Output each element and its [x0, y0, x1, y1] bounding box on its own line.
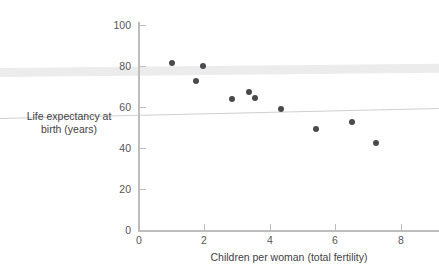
x-tick-mark: [401, 224, 402, 230]
x-axis-line: [138, 230, 439, 232]
horizontal-gray-band: [0, 64, 439, 77]
data-point: [193, 78, 199, 84]
data-point: [373, 140, 379, 146]
x-axis-title: Children per woman (total fertility): [139, 251, 439, 263]
x-tick-label: 0: [124, 234, 154, 246]
y-tick-mark: [140, 66, 146, 67]
y-axis-title-line-1: Life expectancy at: [8, 110, 130, 123]
y-tick-mark: [140, 189, 146, 190]
y-tick-mark: [140, 230, 146, 231]
y-tick-label: 40: [100, 142, 131, 154]
y-tick-label: 80: [100, 60, 131, 72]
data-point: [349, 119, 355, 125]
data-point: [278, 106, 284, 112]
x-tick-mark: [204, 224, 205, 230]
x-tick-mark: [139, 224, 140, 230]
y-axis-line: [138, 22, 140, 231]
data-point: [200, 63, 206, 69]
x-tick-label: 8: [386, 234, 416, 246]
x-tick-label: 6: [320, 234, 350, 246]
y-tick-label: 100: [100, 19, 131, 31]
data-point: [169, 60, 175, 66]
y-tick-mark: [140, 148, 146, 149]
x-tick-label: 2: [189, 234, 219, 246]
y-tick-mark: [140, 107, 146, 108]
data-point: [252, 95, 258, 101]
y-tick-label: 20: [100, 183, 131, 195]
x-tick-mark: [335, 224, 336, 230]
data-point: [313, 126, 319, 132]
data-point: [229, 96, 235, 102]
y-axis-title-line-2: birth (years): [8, 123, 130, 136]
y-tick-mark: [140, 25, 146, 26]
x-tick-label: 4: [255, 234, 285, 246]
x-tick-mark: [270, 224, 271, 230]
scatter-chart: 0 20 40 60 80 100 0 2 4 6 8 Children per…: [0, 0, 439, 273]
data-point: [246, 89, 252, 95]
y-axis-title: Life expectancy at birth (years): [8, 110, 130, 136]
